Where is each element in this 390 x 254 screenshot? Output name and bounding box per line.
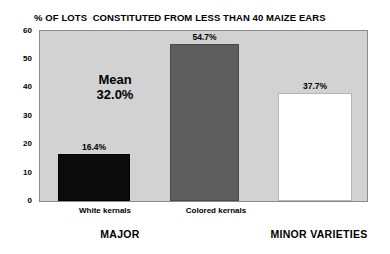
chart-container: % OF LOTS CONSTITUTED FROM LESS THAN 40 …	[0, 0, 390, 254]
bar-value-minor-varieties: 37.7%	[278, 82, 352, 91]
y-axis: 0 10 20 30 40 50 60	[0, 30, 37, 202]
group-label-minor-varieties: MINOR VARIETIES	[250, 228, 388, 240]
y-tick-40: 40	[23, 83, 32, 91]
y-tick-0: 0	[28, 197, 32, 205]
bar-value-white-kernals: 16.4%	[58, 143, 130, 152]
bar-colored-kernals[interactable]	[170, 44, 239, 201]
bar-value-colored-kernals: 54.7%	[170, 33, 239, 42]
group-label-major: MAJOR	[55, 228, 185, 240]
y-tick-30: 30	[23, 112, 32, 120]
bars-layer: 16.4% 54.7% 37.7%	[39, 30, 368, 202]
y-tick-10: 10	[23, 169, 32, 177]
y-tick-60: 60	[23, 27, 32, 35]
mean-annotation: Mean 32.0%	[63, 72, 167, 102]
y-tick-50: 50	[23, 55, 32, 63]
bar-white-kernals[interactable]	[58, 154, 130, 201]
bar-minor-varieties[interactable]	[278, 93, 352, 201]
chart-title: % OF LOTS CONSTITUTED FROM LESS THAN 40 …	[34, 12, 382, 23]
category-label-colored-kernals: Colored kernals	[148, 206, 284, 215]
y-tick-20: 20	[23, 140, 32, 148]
